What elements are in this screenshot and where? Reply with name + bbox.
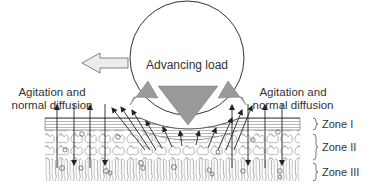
right-label-line1: Agitation and [243,86,343,99]
brace-zone-2-icon [313,134,318,160]
hollow-arrow-left-icon [82,53,128,73]
tissue-layers [45,118,300,181]
left-label-line2: normal diffusion [2,99,102,112]
brace-zone-1-icon [313,118,318,130]
left-label-line1: Agitation and [2,86,102,99]
compression-arrows-icon [130,81,246,125]
brace-zone-3-icon [313,163,318,181]
zone-1-label: Zone I [322,118,353,130]
zone-braces [313,118,318,181]
left-label: Agitation and normal diffusion [2,86,102,112]
zone-2-label: Zone II [322,141,356,153]
right-label-line2: normal diffusion [243,99,343,112]
diagram-canvas: Advancing load Agitation and normal diff… [0,0,371,190]
right-label: Agitation and normal diffusion [243,86,343,112]
zone-3-region [45,160,300,181]
center-label: Advancing load [137,59,237,72]
zone-3-label: Zone III [322,166,359,178]
